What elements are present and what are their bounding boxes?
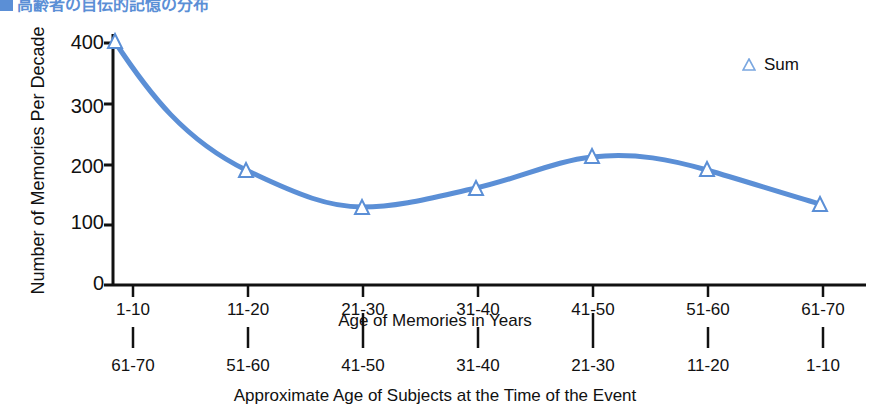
plot-area	[0, 0, 870, 417]
triangle-up-icon	[742, 58, 756, 71]
x-tick-label-bottom-4: 21-30	[548, 356, 638, 376]
chart-legend: Sum	[742, 56, 799, 73]
x-axis-title-top: Age of Memories in Years	[0, 311, 870, 331]
data-series-sum-line	[115, 42, 820, 207]
x-axis-title-bottom: Approximate Age of Subjects at the Time …	[0, 386, 870, 406]
x-tick-label-bottom-1: 51-60	[203, 356, 293, 376]
x-tick-label-bottom-5: 11-20	[663, 356, 753, 376]
legend-label-sum: Sum	[764, 56, 799, 73]
x-tick-label-bottom-2: 41-50	[318, 356, 408, 376]
chart-page: 高齢者の自伝的記憶の分布 Number of Memories Per Deca…	[0, 0, 870, 417]
data-series-sum-markers	[108, 34, 827, 214]
x-tick-label-bottom-0: 61-70	[88, 356, 178, 376]
data-point-1	[108, 34, 122, 48]
x-tick-label-bottom-3: 31-40	[433, 356, 523, 376]
x-tick-label-bottom-6: 1-10	[778, 356, 868, 376]
x-axis-ticks-top	[133, 285, 823, 297]
